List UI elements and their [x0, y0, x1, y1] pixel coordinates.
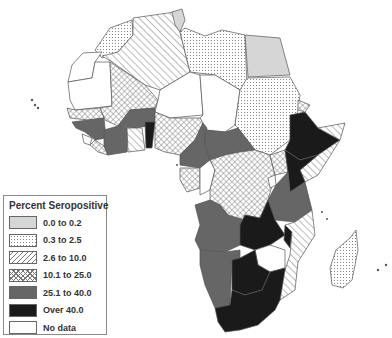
- legend-label: 2.6 to 10.0: [43, 253, 87, 263]
- legend-item: 0.3 to 2.5: [9, 232, 106, 250]
- legend-item: 0.0 to 0.2: [9, 214, 106, 232]
- legend-label: Over 40.0: [43, 305, 84, 315]
- swatch-0-0-to-0-2: [9, 216, 37, 229]
- swatch-10-1-to-25-0: [9, 269, 37, 282]
- legend-label: No data: [43, 323, 76, 333]
- country-madagascar: [330, 230, 358, 288]
- island-comoros: [321, 211, 323, 213]
- country-eritrea: [298, 100, 310, 112]
- legend-item: 2.6 to 10.0: [9, 249, 106, 267]
- swatch-over-40-0: [9, 304, 37, 317]
- country-egypt: [245, 35, 290, 77]
- swatch-25-1-to-40-0: [9, 286, 37, 299]
- legend-label: 25.1 to 40.0: [43, 288, 92, 298]
- legend-item: 10.1 to 25.0: [9, 267, 106, 285]
- country-gabon: [180, 168, 200, 192]
- country-ghana: [127, 128, 145, 152]
- legend-item: 25.1 to 40.0: [9, 284, 106, 302]
- map-legend: Percent Seropositive 0.0 to 0.2 0.3 to 2…: [3, 195, 107, 335]
- island-cape-verde: [34, 104, 36, 106]
- country-cote-divoire: [104, 126, 128, 155]
- island-comoros: [326, 218, 328, 220]
- country-senegal: [67, 108, 104, 120]
- legend-label: 0.3 to 2.5: [43, 235, 82, 245]
- legend-title: Percent Seropositive: [9, 200, 106, 211]
- legend-label: 0.0 to 0.2: [43, 218, 82, 228]
- swatch-2-6-to-10-0: [9, 251, 37, 264]
- swatch-0-3-to-2-5: [9, 234, 37, 247]
- island-cape-verde: [37, 107, 39, 109]
- swatch-no-data: [9, 321, 37, 334]
- island-bioko: [176, 164, 178, 166]
- island-cape-verde: [31, 99, 33, 101]
- island-mauritius: [377, 269, 379, 271]
- legend-label: 10.1 to 25.0: [43, 270, 92, 280]
- legend-item: No data: [9, 319, 106, 337]
- country-benin: [145, 122, 155, 148]
- legend-item: Over 40.0: [9, 302, 106, 320]
- island-reunion: [385, 264, 387, 266]
